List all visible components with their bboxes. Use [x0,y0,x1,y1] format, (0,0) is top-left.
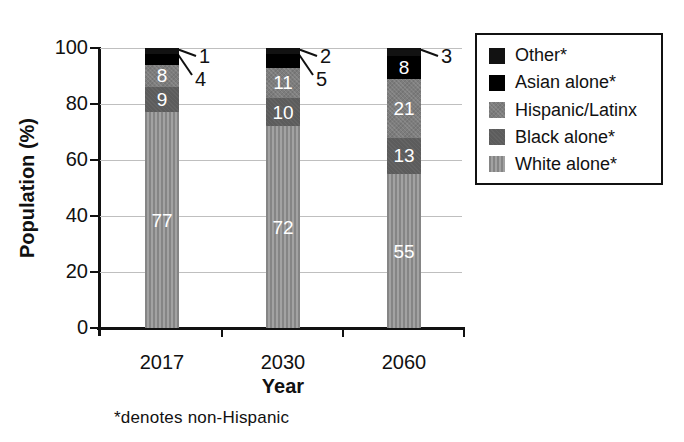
legend-swatch-hispanic-latinx [489,102,505,118]
bar-2017-segment-asian-alone [145,54,179,65]
legend-item-black-alone: Black alone* [489,127,653,148]
callout-label-2017-asian-alone: 4 [195,68,206,91]
y-tick-80 [90,103,99,105]
x-category-label-2030: 2030 [261,351,306,374]
y-axis-line [98,47,101,336]
bar-value-label: 8 [399,58,410,77]
legend-label-other: Other* [515,45,567,66]
callout-line-2017-asian-alone [177,53,192,75]
callout-line-2030-asian-alone [298,53,313,75]
bar-2017-segment-other [145,48,179,54]
y-tick-label-80: 80 [36,92,88,115]
legend-swatch-asian-alone [489,75,505,91]
legend: Other*Asian alone*Hispanic/LatinxBlack a… [475,33,663,185]
legend-swatch-other [489,48,505,64]
legend-item-other: Other* [489,45,653,66]
bar-2060-segment-other [387,48,421,56]
bar-2060-segment-hispanic-latinx: 21 [387,79,421,138]
y-tick-label-0: 0 [36,316,88,339]
y-tick-0 [90,327,99,329]
bar-value-label: 10 [272,103,293,122]
legend-label-hispanic-latinx: Hispanic/Latinx [515,100,637,121]
callout-label-2030-other: 2 [320,45,331,68]
bar-value-label: 9 [157,90,168,109]
x-category-label-2017: 2017 [140,351,185,374]
bar-2030-segment-white-alone: 72 [266,126,300,328]
y-tick-100 [90,47,99,49]
callout-line-2060-other [419,49,438,56]
legend-swatch-black-alone [489,129,505,145]
bar-2030-segment-other [266,48,300,54]
y-axis-title: Population (%) [16,118,39,258]
population-stacked-bar-figure: Population (%) Year *denotes non-Hispani… [0,0,684,442]
legend-label-asian-alone: Asian alone* [515,72,616,93]
legend-item-hispanic-latinx: Hispanic/Latinx [489,99,653,120]
bar-2030-segment-asian-alone [266,54,300,68]
x-tick-1 [342,330,344,337]
legend-label-white-alone: White alone* [515,154,617,175]
callout-line-2017-other [177,49,196,56]
x-tick-2 [463,330,465,337]
callout-label-2030-asian-alone: 5 [316,68,327,91]
x-tick-0 [221,330,223,337]
callout-label-2017-other: 1 [199,45,210,68]
legend-label-black-alone: Black alone* [515,127,615,148]
footnote: *denotes non-Hispanic [114,408,289,428]
bar-2017-segment-white-alone: 77 [145,112,179,328]
bar-2017-segment-hispanic-latinx: 8 [145,65,179,87]
bar-2017-segment-black-alone: 9 [145,87,179,112]
bar-2060-segment-black-alone: 13 [387,138,421,174]
bar-2060-segment-white-alone: 55 [387,174,421,328]
bar-value-label: 8 [157,66,168,85]
bar-2030-segment-hispanic-latinx: 11 [266,68,300,99]
bar-value-label: 13 [393,146,414,165]
y-tick-label-100: 100 [36,36,88,59]
legend-item-white-alone: White alone* [489,154,653,175]
x-category-label-2060: 2060 [382,351,427,374]
bar-value-label: 72 [272,218,293,237]
y-tick-label-60: 60 [36,148,88,171]
callout-line-2030-other [298,49,317,56]
y-tick-20 [90,271,99,273]
legend-swatch-white-alone [489,156,505,172]
bar-2030-segment-black-alone: 10 [266,98,300,126]
x-axis-title: Year [262,375,304,398]
callout-label-2060-other: 3 [441,45,452,68]
y-tick-40 [90,215,99,217]
y-tick-60 [90,159,99,161]
bar-2060-segment-asian-alone: 8 [387,56,421,78]
legend-item-asian-alone: Asian alone* [489,72,653,93]
y-tick-label-20: 20 [36,260,88,283]
bar-value-label: 21 [393,99,414,118]
bar-value-label: 55 [393,242,414,261]
y-tick-label-40: 40 [36,204,88,227]
bar-value-label: 11 [273,73,293,92]
bar-value-label: 77 [151,211,172,230]
